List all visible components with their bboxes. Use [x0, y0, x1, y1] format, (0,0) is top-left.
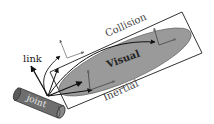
link-diagram: link Collision Visual Inertial joint	[0, 0, 214, 124]
collision-label: Collision	[103, 11, 148, 39]
collision-frame	[60, 40, 84, 58]
link-label: link	[23, 53, 43, 64]
